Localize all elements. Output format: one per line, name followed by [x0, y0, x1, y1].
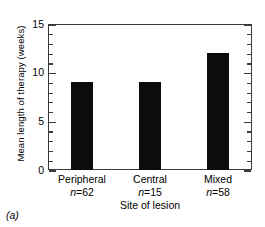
x-category-sample-size: n=62: [48, 186, 116, 199]
x-category-peripheral: Peripheraln=62: [48, 173, 116, 198]
y-tick-minor-left-3: [49, 141, 53, 142]
y-tick-minor-right-6: [247, 112, 251, 113]
x-category-name: Peripheral: [48, 173, 116, 186]
y-tick-minor-left-12: [49, 54, 53, 55]
y-tick-minor-right-4: [247, 131, 251, 132]
y-tick-major-right-10: [244, 73, 251, 74]
plot-area: [48, 24, 252, 170]
y-tick-minor-left-7: [49, 102, 53, 103]
x-category-name: Central: [116, 173, 184, 186]
y-tick-minor-right-9: [247, 83, 251, 84]
figure-panel-a: Mean length of therapy (weeks) 0 5 10 15…: [0, 0, 265, 227]
y-tick-minor-left-2: [49, 151, 53, 152]
y-tick-minor-right-7: [247, 102, 251, 103]
y-tick-label-0: 0: [18, 165, 44, 175]
x-category-sample-size: n=58: [184, 186, 252, 199]
y-tick-minor-left-11: [49, 63, 53, 64]
y-tick-label-5: 5: [18, 116, 44, 126]
x-category-sample-size: n=15: [116, 186, 184, 199]
y-tick-minor-left-8: [49, 93, 53, 94]
panel-caption: (a): [6, 209, 19, 221]
y-tick-major-right-5: [244, 122, 251, 123]
y-tick-minor-right-14: [247, 34, 251, 35]
y-tick-label-15: 15: [18, 19, 44, 29]
y-tick-minor-left-14: [49, 34, 53, 35]
y-tick-minor-left-6: [49, 112, 53, 113]
y-tick-label-10: 10: [18, 67, 44, 77]
y-tick-minor-right-12: [247, 54, 251, 55]
y-tick-minor-left-13: [49, 44, 53, 45]
x-axis-label: Site of lesion: [48, 199, 252, 211]
x-category-mixed: Mixedn=58: [184, 173, 252, 198]
y-tick-minor-left-9: [49, 83, 53, 84]
y-tick-major-left-15: [49, 24, 56, 25]
y-axis-tick-labels: 0 5 10 15: [14, 24, 44, 170]
y-tick-minor-right-1: [247, 161, 251, 162]
y-tick-minor-left-1: [49, 161, 53, 162]
y-tick-minor-right-3: [247, 141, 251, 142]
y-tick-major-left-10: [49, 73, 56, 74]
y-tick-major-right-0: [244, 170, 251, 171]
y-tick-minor-right-8: [247, 93, 251, 94]
y-tick-major-left-5: [49, 122, 56, 123]
y-tick-minor-right-11: [247, 63, 251, 64]
y-tick-minor-right-2: [247, 151, 251, 152]
y-tick-major-left-0: [49, 170, 56, 171]
x-category-name: Mixed: [184, 173, 252, 186]
y-tick-minor-left-4: [49, 131, 53, 132]
y-tick-minor-right-13: [247, 44, 251, 45]
x-category-central: Centraln=15: [116, 173, 184, 198]
y-tick-major-right-15: [244, 24, 251, 25]
